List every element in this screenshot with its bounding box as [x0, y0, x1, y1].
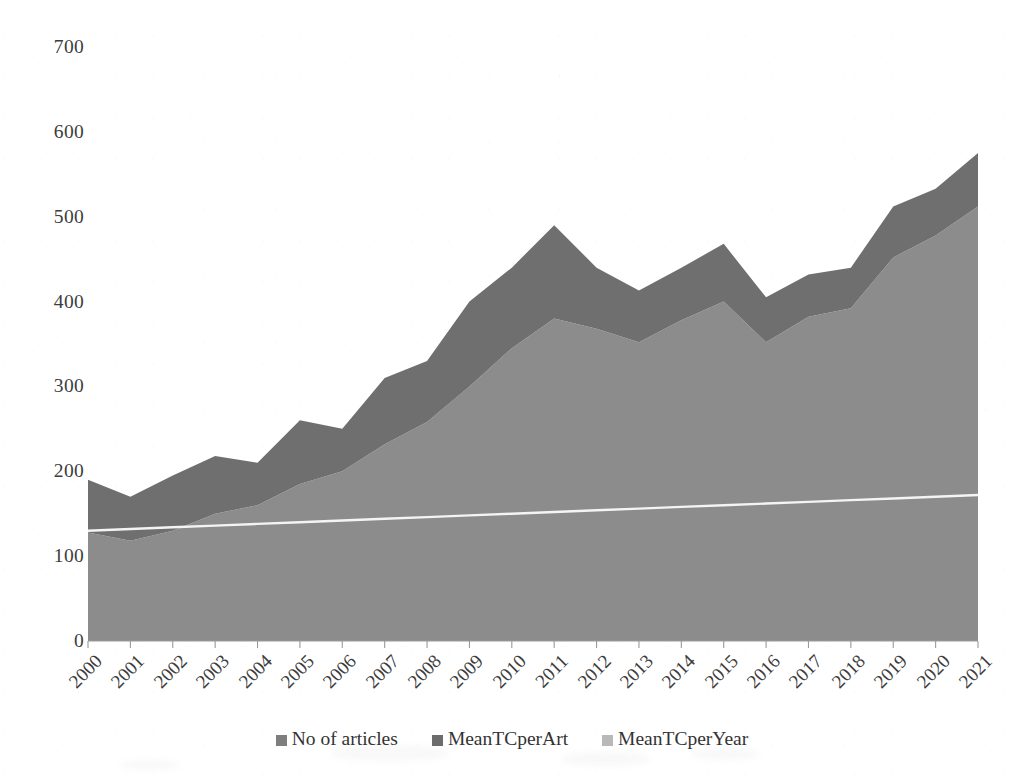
x-axis-tick-label: 2019 [862, 651, 911, 700]
x-axis-tick-label: 2004 [226, 651, 275, 700]
plot-area: 7006005004003002001000 [0, 0, 1024, 700]
legend-label: MeanTCperYear [618, 729, 748, 749]
x-axis-tick-label: 2013 [608, 651, 657, 700]
legend-item[interactable]: No of articles [276, 729, 398, 749]
x-axis-tick-label: 2006 [311, 651, 360, 700]
legend-label: MeanTCperArt [448, 729, 568, 749]
x-axis-tick-label: 2018 [819, 651, 868, 700]
y-axis-tick-label: 400 [8, 292, 84, 312]
x-axis-tick-label: 2009 [438, 651, 487, 700]
legend-swatch-icon [432, 735, 443, 746]
y-axis-tick-label: 200 [8, 461, 84, 481]
x-axis-labels: 2000200120022003200420052006200720082009… [0, 645, 1024, 715]
x-axis-tick-label: 2003 [184, 651, 233, 700]
x-axis-tick-label: 2017 [777, 651, 826, 700]
legend-item[interactable]: MeanTCperArt [432, 729, 568, 749]
chart-legend: No of articlesMeanTCperArtMeanTCperYear [0, 722, 1024, 756]
x-axis-tick-label: 2012 [565, 651, 614, 700]
y-axis-tick-label: 500 [8, 207, 84, 227]
chart-root: 7006005004003002001000 20002001200220032… [0, 0, 1024, 782]
y-axis-tick-label: 300 [8, 376, 84, 396]
area-chart-svg [0, 0, 1024, 700]
legend-swatch-icon [602, 735, 613, 746]
scan-smudge [120, 760, 180, 770]
y-axis-labels: 7006005004003002001000 [0, 0, 84, 700]
x-axis-tick-label: 2002 [141, 651, 190, 700]
x-axis-tick-label: 2008 [396, 651, 445, 700]
series-layer [88, 153, 978, 641]
x-axis-tick-label: 2011 [523, 651, 572, 700]
y-axis-tick-label: 700 [8, 37, 84, 57]
legend-label: No of articles [292, 729, 398, 749]
x-axis-tick-label: 2014 [650, 651, 699, 700]
y-axis-tick-label: 600 [8, 122, 84, 142]
x-axis-tick-label: 2016 [735, 651, 784, 700]
x-axis-tick-label: 2005 [269, 651, 318, 700]
x-axis-tick-label: 2010 [480, 651, 529, 700]
x-axis-tick-label: 2015 [692, 651, 741, 700]
x-axis-tick-label: 2001 [99, 651, 148, 700]
legend-item[interactable]: MeanTCperYear [602, 729, 748, 749]
x-axis-tick-label: 2021 [947, 651, 996, 700]
x-axis-tick-label: 2020 [904, 651, 953, 700]
x-axis-tick-label: 2007 [353, 651, 402, 700]
y-axis-tick-label: 100 [8, 546, 84, 566]
legend-swatch-icon [276, 735, 287, 746]
x-axis-tick-label: 2000 [57, 651, 106, 700]
